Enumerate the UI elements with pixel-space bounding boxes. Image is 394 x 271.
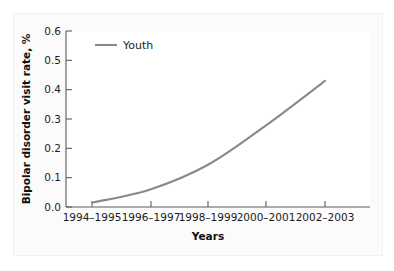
- y-tick-label: 0.2: [44, 142, 61, 154]
- chart-panel: 0.0 0.1 0.2 0.3 0.4 0.5 0.6 1994–1995 19…: [13, 13, 383, 256]
- y-axis-title: Bipolar disorder visit rate, %: [20, 33, 32, 204]
- x-tick-label: 2000–2001: [237, 211, 296, 223]
- y-tick-label: 0.3: [44, 113, 61, 125]
- x-tick-label: 1998–1999: [179, 211, 238, 223]
- legend-label-youth: Youth: [122, 39, 153, 52]
- y-tick-label: 0.1: [44, 171, 61, 183]
- y-tick-label: 0.5: [44, 54, 61, 66]
- figure-container: 0.0 0.1 0.2 0.3 0.4 0.5 0.6 1994–1995 19…: [0, 0, 394, 271]
- plot-area-background: [66, 31, 370, 207]
- x-tick-label: 1996–1997: [122, 211, 181, 223]
- y-tick-label: 0.4: [44, 83, 61, 95]
- x-axis-tick-labels: 1994–1995 1996–1997 1998–1999 2000–2001 …: [63, 211, 355, 223]
- line-chart: 0.0 0.1 0.2 0.3 0.4 0.5 0.6 1994–1995 19…: [13, 13, 383, 256]
- y-axis-tick-labels: 0.0 0.1 0.2 0.3 0.4 0.5 0.6: [44, 25, 61, 213]
- x-tick-label: 1994–1995: [63, 211, 122, 223]
- y-tick-label: 0.6: [44, 25, 61, 37]
- x-axis-title: Years: [191, 230, 224, 242]
- y-tick-label: 0.0: [44, 201, 61, 213]
- x-tick-label: 2002–2003: [296, 211, 355, 223]
